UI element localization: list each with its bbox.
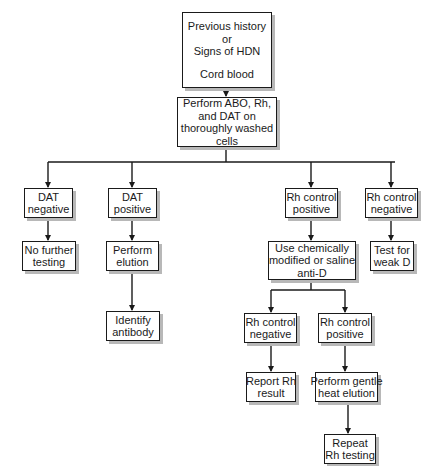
node-text-line: thoroughly washed [181,122,273,135]
node-text-line: Use chemically [275,242,349,255]
node-text-line: negative [250,328,292,341]
node-text-line: Repeat [332,437,367,450]
node-test-for-weak-d: Test for weak D [370,241,414,271]
node-text-line: Perform ABO, Rh, [183,97,271,110]
node-no-further-testing: No further testing [22,241,76,271]
node-rh-control-negative-2: Rh control negative [244,313,297,343]
node-text-line: result [258,387,285,400]
node-text-line: Cord blood [200,68,254,81]
node-text-line: positive [326,328,363,341]
node-text-line: Signs of HDN [194,45,261,58]
node-text-line: Rh testing [325,449,375,462]
node-rh-control-negative: Rh control negative [365,188,418,218]
node-text-line: Report Rh [246,375,296,388]
node-report-rh-result: Report Rh result [246,372,296,402]
node-perform-elution: Perform elution [106,241,159,271]
node-text-line: modified or saline [269,254,355,267]
node-text-line: negative [28,203,70,216]
node-use-chemically-modified-anti-d: Use chemically modified or saline anti-D [268,241,356,280]
node-text-line: Test for [374,244,410,257]
node-text-line: negative [371,203,413,216]
node-dat-positive: DAT positive [108,188,157,218]
node-text-line: Perform gentle [310,375,382,388]
node-text-line: Rh control [245,316,295,329]
node-text-line: or [222,33,232,46]
node-text-line: Rh control [320,316,370,329]
node-text-line: antibody [112,326,154,339]
node-perform-gentle-heat-elution: Perform gentle heat elution [315,372,378,402]
node-text-line: Previous history [188,20,266,33]
node-repeat-rh-testing: Repeat Rh testing [324,434,376,464]
node-start-previous-history: Previous history or Signs of HDN Cord bl… [182,12,272,88]
node-text-line: Rh control [286,191,336,204]
node-text-line: testing [33,256,65,269]
node-text-line: heat elution [318,387,375,400]
node-text-line: and DAT on [198,110,256,123]
node-text-line: cells [216,135,238,148]
node-identify-antibody: Identify antibody [106,311,160,341]
node-rh-control-positive-2: Rh control positive [318,313,372,343]
node-perform-abo-rh-dat: Perform ABO, Rh, and DAT on thoroughly w… [177,97,277,147]
node-text-line: Perform [113,244,152,257]
node-text-line: DAT [38,191,59,204]
node-text-line: positive [293,203,330,216]
node-text-line: No further [25,244,74,257]
node-text-line: weak D [374,256,411,269]
node-dat-negative: DAT negative [24,188,73,218]
node-rh-control-positive: Rh control positive [285,188,338,218]
node-text-line: positive [114,203,151,216]
node-text-line: Identify [115,314,150,327]
node-text-line: Rh control [366,191,416,204]
node-text-line: elution [116,256,148,269]
node-text-line: DAT [122,191,143,204]
node-text-line: anti-D [297,267,326,280]
